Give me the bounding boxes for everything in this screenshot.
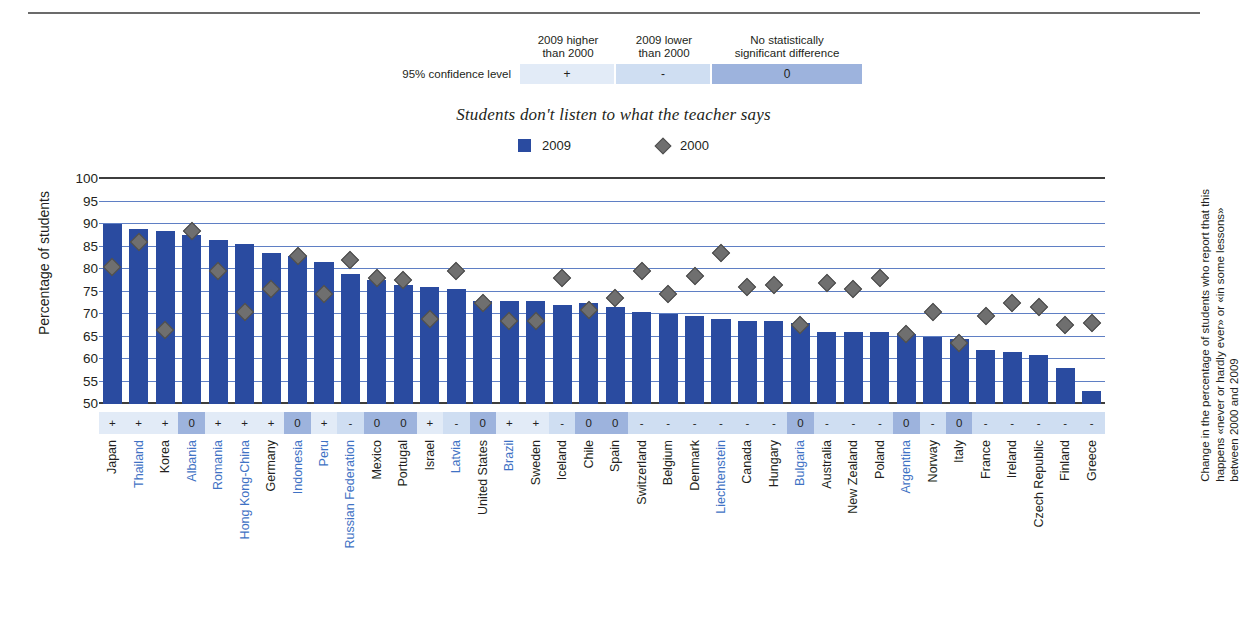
bar-2009[interactable] [1082, 391, 1101, 405]
diamond-2000[interactable] [659, 285, 677, 303]
chart-column[interactable] [920, 179, 946, 404]
chart-column[interactable] [681, 179, 707, 404]
bar-2009[interactable] [659, 314, 678, 404]
chart-column[interactable] [284, 179, 310, 404]
bar-2009[interactable] [103, 224, 122, 404]
chart-column[interactable] [417, 179, 443, 404]
category-label-thailand: Thailand [125, 438, 151, 568]
bar-2009[interactable] [764, 321, 783, 404]
diamond-2000[interactable] [1029, 298, 1047, 316]
y-tick-70: 70 [83, 307, 98, 321]
chart-column[interactable] [1078, 179, 1104, 404]
bar-2009[interactable] [711, 319, 730, 405]
diamond-2000[interactable] [606, 289, 624, 307]
diamond-2000[interactable] [712, 244, 730, 262]
chart-column[interactable] [496, 179, 522, 404]
chart-column[interactable] [575, 179, 601, 404]
chart-column[interactable] [311, 179, 337, 404]
bar-2009[interactable] [129, 229, 148, 405]
diamond-2000[interactable] [871, 269, 889, 287]
chart-column[interactable] [337, 179, 363, 404]
chart-column[interactable] [523, 179, 549, 404]
chart-column[interactable] [125, 179, 151, 404]
chart-column[interactable] [787, 179, 813, 404]
bar-2009[interactable] [632, 312, 651, 404]
bar-2009[interactable] [394, 285, 413, 404]
bar-2009[interactable] [235, 244, 254, 404]
diamond-2000[interactable] [924, 303, 942, 321]
category-label-text: Korea [158, 440, 172, 473]
chart-column[interactable] [972, 179, 998, 404]
chart-column[interactable] [1052, 179, 1078, 404]
diamond-2000[interactable] [844, 280, 862, 298]
diamond-2000[interactable] [1056, 316, 1074, 334]
chart-column[interactable] [840, 179, 866, 404]
bar-2009[interactable] [1003, 352, 1022, 404]
chart-column[interactable] [761, 179, 787, 404]
bar-2009[interactable] [314, 262, 333, 404]
bar-2009[interactable] [288, 256, 307, 405]
bar-2009[interactable] [897, 334, 916, 404]
chart-column[interactable] [364, 179, 390, 404]
bar-2009[interactable] [367, 280, 386, 404]
diamond-2000[interactable] [685, 267, 703, 285]
bar-2009[interactable] [262, 253, 281, 404]
diamond-2000[interactable] [1003, 294, 1021, 312]
bar-2009[interactable] [420, 287, 439, 404]
chart-column[interactable] [734, 179, 760, 404]
bar-2009[interactable] [1056, 368, 1075, 404]
bar-2009[interactable] [844, 332, 863, 404]
bar-2009[interactable] [976, 350, 995, 404]
category-label-text: Brazil [502, 440, 516, 471]
bar-2009[interactable] [685, 316, 704, 404]
bar-2009[interactable] [1029, 355, 1048, 405]
bar-2009[interactable] [156, 231, 175, 404]
significance-cell: 0 [946, 412, 972, 434]
chart-column[interactable] [205, 179, 231, 404]
chart-column[interactable] [999, 179, 1025, 404]
chart-column[interactable] [470, 179, 496, 404]
chart-column[interactable] [602, 179, 628, 404]
diamond-2000[interactable] [447, 262, 465, 280]
chart-column[interactable] [893, 179, 919, 404]
chart-column[interactable] [814, 179, 840, 404]
chart-column[interactable] [946, 179, 972, 404]
diamond-2000[interactable] [738, 278, 756, 296]
chart-column[interactable] [390, 179, 416, 404]
chart-column[interactable] [708, 179, 734, 404]
bar-2009[interactable] [182, 235, 201, 404]
diamond-2000[interactable] [977, 307, 995, 325]
bar-2009[interactable] [923, 337, 942, 405]
bar-2009[interactable] [791, 323, 810, 404]
chart-column[interactable] [1025, 179, 1051, 404]
bar-2009[interactable] [553, 305, 572, 404]
bar-2009[interactable] [606, 307, 625, 404]
category-label-text: Finland [1058, 440, 1072, 481]
y-axis-ticks: 10095908580757065605550 [66, 172, 98, 404]
significance-cell: + [311, 412, 337, 434]
diamond-2000[interactable] [765, 276, 783, 294]
bar-2009[interactable] [738, 321, 757, 404]
chart-column[interactable] [443, 179, 469, 404]
significance-strip: +++0+++0+-00+-0++-00------0---0-0----- [99, 412, 1105, 434]
diamond-2000[interactable] [632, 262, 650, 280]
bar-2009[interactable] [870, 332, 889, 404]
chart-column[interactable] [549, 179, 575, 404]
chart-column[interactable] [258, 179, 284, 404]
chart-column[interactable] [867, 179, 893, 404]
bar-2009[interactable] [447, 289, 466, 404]
bar-2009[interactable] [473, 301, 492, 405]
chart-column[interactable] [152, 179, 178, 404]
chart-column[interactable] [178, 179, 204, 404]
diamond-2000[interactable] [553, 269, 571, 287]
chart-column[interactable] [231, 179, 257, 404]
diamond-2000[interactable] [1082, 314, 1100, 332]
bar-2009[interactable] [341, 274, 360, 405]
diamond-2000[interactable] [341, 251, 359, 269]
significance-cell: - [1078, 412, 1104, 434]
bar-2009[interactable] [817, 332, 836, 404]
diamond-2000[interactable] [818, 273, 836, 291]
chart-column[interactable] [628, 179, 654, 404]
chart-column[interactable] [99, 179, 125, 404]
chart-column[interactable] [655, 179, 681, 404]
